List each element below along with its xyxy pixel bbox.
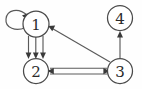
edge-3-to-4-vertical xyxy=(117,31,123,59)
node-3-label: 3 xyxy=(115,63,125,81)
node-4-label: 4 xyxy=(115,10,125,28)
arrowhead-3-to-4 xyxy=(117,31,123,37)
arrowhead-1-to-2-c xyxy=(40,53,46,59)
edge-1-to-2-triple xyxy=(26,36,46,59)
node-1-label: 1 xyxy=(31,16,41,34)
graph-canvas: 1 2 3 4 xyxy=(0,0,142,89)
node-3[interactable]: 3 xyxy=(108,59,133,84)
edge-3-to-1-diagonal xyxy=(48,26,110,62)
node-4[interactable]: 4 xyxy=(108,6,133,31)
node-1[interactable]: 1 xyxy=(23,11,49,37)
node-2-label: 2 xyxy=(31,63,41,81)
node-2[interactable]: 2 xyxy=(24,59,49,84)
graph-diagram: 1 2 3 4 xyxy=(0,0,142,89)
edge-2-to-3-double xyxy=(47,68,110,74)
arrowhead-1-to-2-a xyxy=(26,53,32,59)
